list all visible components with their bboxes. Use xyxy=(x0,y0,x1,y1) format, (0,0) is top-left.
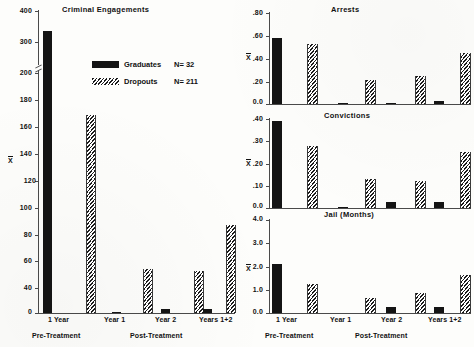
bar-dropouts-years12 xyxy=(226,225,236,313)
y-tick-label: 4.0 xyxy=(243,215,263,222)
y-tick xyxy=(35,11,38,12)
x-axis xyxy=(269,104,471,105)
y-tick-label: 160 xyxy=(8,123,32,130)
x-axis xyxy=(269,313,471,314)
y-tick xyxy=(266,164,269,165)
group-label-year2: Year 2 xyxy=(381,316,402,323)
group-label-year1: Year 1 xyxy=(330,316,351,323)
y-tick xyxy=(266,119,269,120)
y-tick-label: 400 xyxy=(8,7,32,14)
y-tick xyxy=(266,290,269,291)
phase-label-pre: Pre-Treatment xyxy=(265,332,313,339)
y-tick xyxy=(266,13,269,14)
group-label-years12: Years 1+2 xyxy=(199,316,232,323)
panel-criminal-engagements: Criminal Engagements X 400 300 200 180 1… xyxy=(0,0,240,347)
legend-n-graduates: N= 32 xyxy=(174,60,194,69)
y-tick-label: 2.0 xyxy=(243,263,263,270)
y-tick xyxy=(35,42,38,43)
y-tick-label: .20 xyxy=(245,78,263,85)
y-tick-label: 80 xyxy=(8,231,32,238)
bar-graduates-1year xyxy=(272,121,282,208)
legend-n-dropouts: N= 211 xyxy=(174,77,198,86)
bar-graduates-years12 xyxy=(434,101,444,104)
x-axis xyxy=(38,313,235,314)
group-label-years12: Years 1+2 xyxy=(428,316,461,323)
bar-graduates-year2 xyxy=(386,103,396,105)
bar-dropouts-year2 xyxy=(194,271,204,313)
legend-label-graduates: Graduates xyxy=(124,60,161,69)
panel-title: Convictions xyxy=(324,111,370,120)
y-tick xyxy=(266,313,269,314)
panel-jail-months: Jail (Months) X 4.0 3.0 2.0 1.0 0.0 1 Ye… xyxy=(245,209,474,347)
y-tick-label: .60 xyxy=(245,32,263,39)
y-tick xyxy=(266,186,269,187)
bar-graduates-1year xyxy=(43,31,52,313)
y-tick xyxy=(35,127,38,128)
y-tick-label: .30 xyxy=(245,137,263,144)
y-tick xyxy=(266,104,269,105)
legend-swatch-graduates xyxy=(92,61,119,68)
y-tick xyxy=(35,73,38,74)
bar-dropouts-year1 xyxy=(365,179,376,208)
group-label-year2: Year 2 xyxy=(155,316,176,323)
y-tick-label: 300 xyxy=(8,38,32,45)
legend-row-graduates: Graduates N= 32 xyxy=(92,60,222,69)
y-tick-label: 140 xyxy=(8,150,32,157)
group-label-year1: Year 1 xyxy=(104,316,125,323)
group-label-1year: 1 Year xyxy=(48,316,69,323)
bar-dropouts-year1 xyxy=(365,80,376,104)
y-tick-label: .40 xyxy=(245,115,263,122)
bar-dropouts-year2 xyxy=(415,181,426,208)
y-axis xyxy=(269,12,270,104)
y-tick-label: 0.0 xyxy=(243,308,263,315)
y-tick-label: .10 xyxy=(245,182,263,189)
y-axis xyxy=(269,219,270,313)
y-tick xyxy=(35,313,38,314)
panel-title: Arrests xyxy=(331,5,359,14)
bar-graduates-year2 xyxy=(386,307,396,314)
phase-label-post: Post-Treatment xyxy=(130,332,182,339)
y-tick-label: 3.0 xyxy=(243,239,263,246)
bar-dropouts-1year xyxy=(307,44,318,104)
legend-row-dropouts: Dropouts N= 211 xyxy=(92,77,222,86)
y-tick xyxy=(266,141,269,142)
y-tick-label: .40 xyxy=(245,55,263,62)
y-tick-label: 1.0 xyxy=(243,286,263,293)
y-axis-mean-symbol: X xyxy=(8,157,13,164)
bar-dropouts-year2 xyxy=(415,76,426,104)
phase-label-post: Post-Treatment xyxy=(355,332,407,339)
bar-dropouts-year1 xyxy=(365,298,376,313)
y-tick xyxy=(266,267,269,268)
bar-dropouts-1year xyxy=(307,284,318,313)
bar-graduates-year1 xyxy=(338,207,348,209)
bar-graduates-1year xyxy=(272,264,282,313)
y-tick-label: 60 xyxy=(8,257,32,264)
panel-arrests: Arrests X .80 .60 .40 .20 0.0 xyxy=(245,4,474,106)
y-tick-label: 40 xyxy=(8,284,32,291)
phase-label-pre: Pre-Treatment xyxy=(32,332,80,339)
y-tick-label: .80 xyxy=(245,9,263,16)
y-tick-label: 180 xyxy=(8,96,32,103)
figure-canvas: Criminal Engagements X 400 300 200 180 1… xyxy=(0,0,474,347)
y-tick xyxy=(35,261,38,262)
panel-title: Jail (Months) xyxy=(324,210,374,219)
y-tick-label: 0 xyxy=(8,308,32,315)
bar-dropouts-year2 xyxy=(415,293,426,313)
y-tick xyxy=(35,100,38,101)
y-tick xyxy=(266,36,269,37)
group-label-1year: 1 Year xyxy=(276,316,297,323)
bar-dropouts-1year xyxy=(86,115,96,313)
panel-convictions: Convictions X .40 .30 .20 .10 0.0 xyxy=(245,110,474,209)
y-tick xyxy=(266,220,269,221)
y-tick-label: 100 xyxy=(8,204,32,211)
bar-graduates-year1 xyxy=(338,103,348,105)
y-tick xyxy=(266,59,269,60)
bar-graduates-years12 xyxy=(434,202,444,208)
y-tick xyxy=(266,243,269,244)
y-axis xyxy=(269,118,270,208)
legend-label-dropouts: Dropouts xyxy=(124,77,157,86)
bar-dropouts-1year xyxy=(307,146,318,208)
bar-dropouts-years12 xyxy=(460,53,471,104)
y-axis xyxy=(38,10,39,313)
panel-title: Criminal Engagements xyxy=(62,5,149,14)
